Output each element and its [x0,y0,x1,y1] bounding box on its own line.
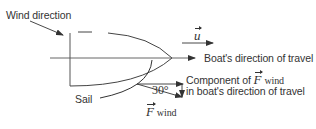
force-symbol: F [146,105,154,118]
velocity-label: u [194,29,200,42]
sailboat-force-diagram: Wind direction u Boat's direction of tra… [0,0,316,129]
velocity-symbol: u [194,29,200,42]
force-wind-label: Fwind [146,105,176,118]
component-label-line2: in boat's direction of travel [186,86,305,97]
wind-direction-arrow [30,21,63,35]
force-subscript: wind [157,107,177,118]
boat-direction-label: Boat's direction of travel [204,53,313,64]
sail-label: Sail [75,94,92,105]
boat-hull-top [78,32,172,58]
sail-curve [100,60,152,98]
boat-hull-bottom [70,58,172,86]
angle-label: 30° [152,84,169,96]
wind-direction-label: Wind direction [6,10,71,21]
